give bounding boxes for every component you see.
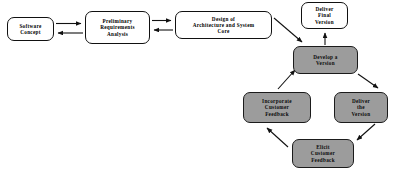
node-elicit-customer-feedback-label: ElicitCustomerFeedback	[293, 144, 353, 162]
node-develop-a-version-label: Develop aVersion	[294, 54, 357, 66]
node-incorporate-customer-feedback-label: IncorporateCustomerFeedback	[244, 98, 310, 116]
node-preliminary-requirements-analysis-label: PreliminaryRequirementsAnalysis	[86, 18, 149, 36]
node-elicit-customer-feedback[interactable]: ElicitCustomerFeedback	[292, 139, 354, 168]
node-deliver-the-version-label: DelivertheVersion	[335, 98, 387, 116]
node-incorporate-customer-feedback[interactable]: IncorporateCustomerFeedback	[243, 92, 311, 123]
node-develop-a-version[interactable]: Develop aVersion	[293, 46, 358, 74]
node-design-of-architecture-and-system-core-label: Design ofArchitecture and SystemCore	[176, 16, 271, 34]
node-software-concept[interactable]: SoftwareConcept	[7, 17, 54, 41]
node-design-of-architecture-and-system-core[interactable]: Design ofArchitecture and SystemCore	[175, 11, 272, 39]
node-deliver-final-version[interactable]: DeliverFinalVersion	[301, 2, 348, 29]
edge-design-to-develop-version	[274, 18, 302, 42]
edge-incorporate-to-develop-version	[278, 70, 295, 89]
edge-elicit-to-incorporate	[267, 128, 288, 147]
process-diagram: SoftwareConcept PreliminaryRequirementsA…	[0, 0, 406, 173]
node-preliminary-requirements-analysis[interactable]: PreliminaryRequirementsAnalysis	[85, 11, 150, 44]
node-deliver-the-version[interactable]: DelivertheVersion	[334, 92, 388, 123]
edge-develop-version-to-deliver-the-version	[358, 74, 378, 88]
edge-deliver-the-version-to-elicit	[357, 124, 375, 140]
node-deliver-final-version-label: DeliverFinalVersion	[302, 6, 347, 24]
node-software-concept-label: SoftwareConcept	[8, 23, 53, 35]
